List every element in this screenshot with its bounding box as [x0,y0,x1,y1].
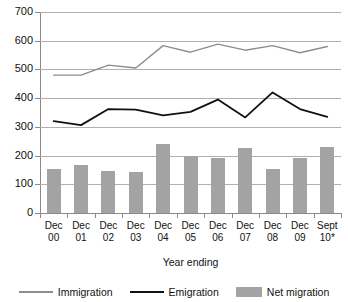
x-axis-tick-mark [95,213,96,218]
x-axis-tick-label-line: Dec [259,220,286,232]
x-axis-tick-label-line: Dec [67,220,94,232]
chart-legend: ImmigrationEmigrationNet migration [0,282,348,302]
x-axis-tick-label-line: Dec [149,220,176,232]
legend-item: Immigration [19,286,113,298]
x-axis-tick-mark [177,213,178,218]
x-axis-tick-mark [259,213,260,218]
x-axis-tick-mark [67,213,68,218]
legend-item: Net migration [236,286,329,298]
legend-label: Net migration [267,286,329,298]
x-axis-tick-label: Dec00 [40,220,67,244]
x-axis-tick-label-line: Dec [204,220,231,232]
x-axis-tick-mark [232,213,233,218]
x-axis-tick-label-line: Dec [122,220,149,232]
x-axis-tick-label: Dec03 [122,220,149,244]
x-axis-tick-label: Dec04 [149,220,176,244]
x-axis-tick-mark [341,213,342,218]
migration-chart: 7006005004003002001000 Dec00Dec01Dec02De… [0,0,348,302]
legend-swatch-line-icon [130,291,164,293]
x-axis-title: Year ending [40,256,341,268]
x-axis-tick-mark [122,213,123,218]
x-axis-tick-mark [40,213,41,218]
legend-swatch-box-icon [236,287,262,297]
x-axis-tick-label-line: 06 [204,232,231,244]
x-axis-tick-label-line: Dec [232,220,259,232]
x-axis-tick-label: Dec09 [286,220,313,244]
x-axis-tick-label-line: 04 [149,232,176,244]
x-axis-tick-mark [286,213,287,218]
x-axis-tick-label-line: 10* [314,232,341,244]
x-axis-tick-mark [149,213,150,218]
x-axis-tick-label-line: 07 [232,232,259,244]
legend-label: Immigration [58,286,113,298]
x-axis-tick-label: Dec02 [95,220,122,244]
x-axis-tick-label-line: 08 [259,232,286,244]
emigration-line [54,92,328,125]
x-axis-tick-mark [204,213,205,218]
x-axis-tick-label: Dec07 [232,220,259,244]
x-axis-tick-label: Dec08 [259,220,286,244]
x-axis-tick-label-line: Dec [95,220,122,232]
x-axis-tick-label: Dec01 [67,220,94,244]
x-axis-tick-label-line: 05 [177,232,204,244]
immigration-line [54,44,328,75]
x-axis-tick-label: Sept10* [314,220,341,244]
legend-item: Emigration [130,286,219,298]
x-axis-tick-label-line: Dec [286,220,313,232]
legend-label: Emigration [169,286,219,298]
x-axis-tick-mark [314,213,315,218]
x-axis-tick-label: Dec05 [177,220,204,244]
x-axis-tick-label-line: 03 [122,232,149,244]
x-axis-tick-label-line: Dec [40,220,67,232]
x-axis-tick-label-line: 09 [286,232,313,244]
x-axis-tick-label-line: 01 [67,232,94,244]
legend-swatch-line-icon [19,291,53,293]
x-axis-tick-label: Dec06 [204,220,231,244]
x-axis-tick-label-line: Dec [177,220,204,232]
x-axis-tick-label-line: 00 [40,232,67,244]
x-axis-tick-label-line: Sept [314,220,341,232]
x-axis-tick-label-line: 02 [95,232,122,244]
